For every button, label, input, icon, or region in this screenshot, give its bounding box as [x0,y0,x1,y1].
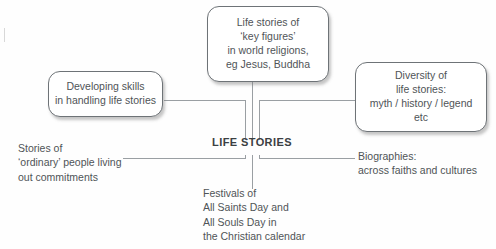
node-box-developing-skills[interactable]: Developing skills in handling life stori… [48,71,163,117]
box-key-figures-line-1: Life stories of [214,16,322,30]
scan-margin-rule [4,28,5,42]
connector-right-box-horizontal [259,100,356,101]
connector-left-box-elbow [245,100,246,140]
box-key-figures-line-3: in world religions, [214,44,322,58]
label-festivals-line-1: Festivals of [203,186,305,200]
connector-biographies-horizontal [259,158,355,159]
diagram-canvas: Life stories of ‘key figures’ in world r… [0,0,496,249]
label-biographies-line-2: across faiths and cultures [358,163,477,177]
box-key-figures-line-4: eg Jesus, Buddha [214,58,322,72]
text-label-festivals: Festivals of All Saints Day and All Soul… [203,186,305,244]
label-biographies-line-1: Biographies: [358,149,477,163]
label-ordinary-people-line-3: out commitments [18,170,122,184]
label-ordinary-people-line-1: Stories of [18,141,122,155]
box-diversity-line-4: etc [362,111,480,125]
box-diversity-line-3: myth / history / legend [362,97,480,111]
label-ordinary-people-line-2: ‘ordinary’ people living [18,155,122,169]
node-box-diversity[interactable]: Diversity of life stories: myth / histor… [355,62,487,132]
text-label-ordinary-people: Stories of ‘ordinary’ people living out … [18,141,122,184]
connector-biographies-elbow [259,155,260,159]
connector-right-box-elbow [259,100,260,140]
box-developing-skills-line-2: in handling life stories [55,94,156,108]
connector-ordinary-people-elbow [245,155,246,159]
box-developing-skills-line-1: Developing skills [55,80,156,94]
node-box-key-figures[interactable]: Life stories of ‘key figures’ in world r… [207,6,329,82]
connector-left-box-horizontal [164,100,246,101]
connector-ordinary-people-horizontal [123,158,246,159]
label-festivals-line-3: All Souls Day in [203,215,305,229]
text-label-biographies: Biographies: across faiths and cultures [358,149,477,178]
box-key-figures-line-2: ‘key figures’ [214,30,322,44]
connector-top-to-center [252,82,253,140]
label-festivals-line-2: All Saints Day and [203,200,305,214]
label-festivals-line-4: the Christian calendar [203,229,305,243]
connector-center-to-festivals [252,155,253,189]
box-diversity-line-2: life stories: [362,83,480,97]
diagram-center-title: LIFE STORIES [186,136,318,148]
box-diversity-line-1: Diversity of [362,69,480,83]
